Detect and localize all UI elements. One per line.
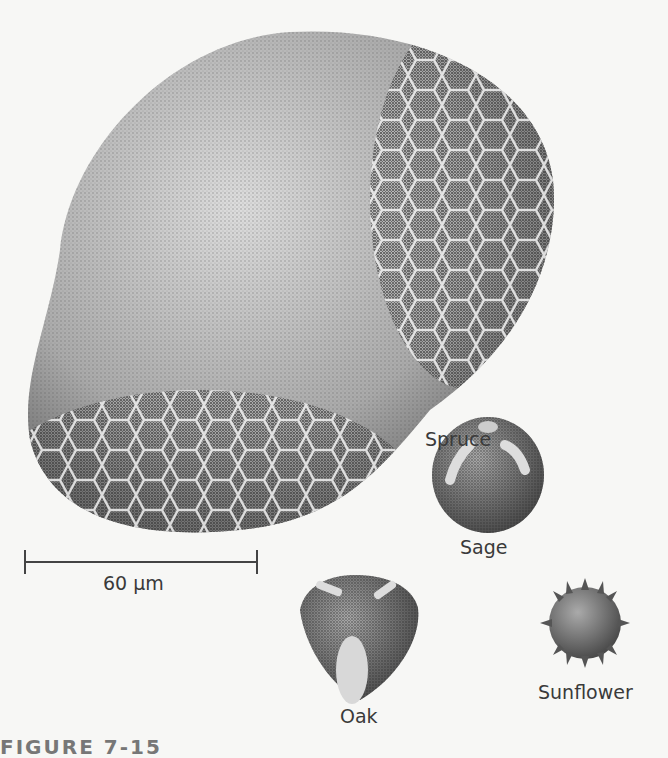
oak-label: Oak: [340, 705, 378, 727]
scale-bar-label: 60 µm: [103, 572, 164, 594]
figure-caption: FIGURE 7-15: [0, 735, 162, 758]
spruce-label: Spruce: [425, 428, 491, 450]
oak-pollen-grain: [300, 575, 418, 704]
sage-label: Sage: [460, 536, 507, 558]
scale-bar: [25, 550, 257, 574]
sunflower-pollen-grain: [540, 578, 630, 668]
spruce-pollen-grain: [0, 0, 668, 610]
sunflower-label: Sunflower: [538, 681, 633, 703]
